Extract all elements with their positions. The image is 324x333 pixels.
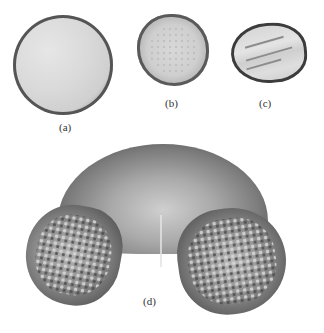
pollen-grain-b — [137, 14, 209, 86]
reticulate-texture — [30, 209, 118, 301]
streak — [246, 58, 281, 69]
pollen-grain-a — [13, 15, 113, 115]
reticulate-texture — [182, 212, 281, 309]
pollen-grain-c — [229, 20, 309, 85]
panel-label-c: (c) — [259, 97, 271, 109]
panel-label-b: (b) — [165, 97, 178, 109]
panel-label-a: (a) — [59, 121, 71, 133]
panel-label-d: (d) — [143, 295, 156, 307]
streak — [246, 46, 293, 61]
pollen-grain-d-seam — [160, 215, 162, 267]
pollen-grain-d-notch — [140, 258, 182, 318]
granular-texture — [149, 26, 197, 74]
streak — [245, 36, 284, 48]
